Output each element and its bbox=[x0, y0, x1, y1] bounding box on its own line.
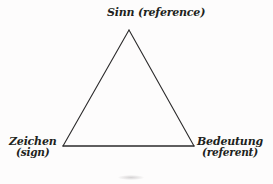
semiotic-triangle-diagram: Sinn (reference) Zeichen (sign) Bedeutun… bbox=[0, 0, 273, 184]
node-label-bedeutung: Bedeutung (referent) bbox=[197, 136, 263, 158]
paper-smudge-artifact bbox=[118, 175, 144, 180]
node-label-sinn: Sinn (reference) bbox=[107, 7, 205, 18]
node-label-sinn-text: Sinn (reference) bbox=[107, 7, 205, 18]
node-label-zeichen: Zeichen (sign) bbox=[9, 136, 57, 158]
triangle-left-edge bbox=[63, 30, 129, 146]
node-label-bedeutung-english: (referent) bbox=[197, 147, 263, 158]
triangle-right-edge bbox=[129, 30, 194, 146]
node-label-zeichen-english: (sign) bbox=[9, 147, 57, 158]
